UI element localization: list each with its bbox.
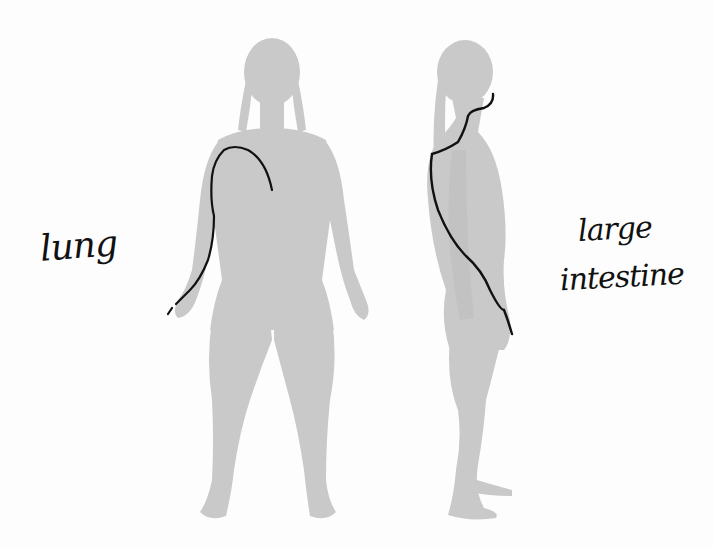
diagram-canvas: lung large intestine <box>0 0 714 547</box>
front-silhouette <box>175 38 369 518</box>
label-large: large <box>577 212 652 246</box>
label-intestine: intestine <box>559 259 684 295</box>
label-lung: lung <box>39 225 118 266</box>
